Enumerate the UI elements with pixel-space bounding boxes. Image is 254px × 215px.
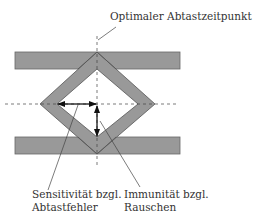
- immunity-label-line2: Rauschen: [124, 201, 176, 213]
- sensitivity-label-line1: Sensitivität bzgl.: [32, 188, 122, 200]
- optimal-sampling-label: Optimaler Abtastzeitpunkt: [110, 10, 252, 22]
- sensitivity-label-line2: Abtastfehler: [31, 201, 99, 213]
- immunity-label-line1: Immunität bzgl.: [124, 188, 209, 200]
- optimal-sampling-leader: [98, 27, 116, 40]
- eye-diagram: Optimaler Abtastzeitpunkt Sensitivität b…: [0, 0, 254, 215]
